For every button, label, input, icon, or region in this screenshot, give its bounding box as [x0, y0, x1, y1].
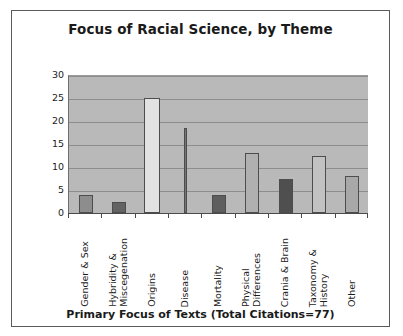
x-axis-tick-mark [201, 214, 202, 218]
x-axis-category-label: Hybridity & Miscegenation [101, 219, 134, 307]
bar [212, 195, 226, 213]
x-axis-tick-mark [268, 214, 269, 218]
x-axis-category-label: Origins [135, 219, 168, 307]
y-axis-tick-label: 30 [24, 69, 64, 80]
y-axis-tick-label: 10 [24, 161, 64, 172]
bar [312, 156, 326, 214]
y-axis-tick-label: 25 [24, 92, 64, 103]
bar [79, 195, 93, 213]
x-axis-tick-mark [101, 214, 102, 218]
x-axis-category-label: Physical Differences [235, 219, 268, 307]
x-axis-category-label: Disease [168, 219, 201, 307]
bar [184, 128, 187, 213]
bar [345, 176, 359, 213]
plot-area [68, 75, 368, 213]
x-axis-tick-mark [335, 214, 336, 218]
x-axis-title: Primary Focus of Texts (Total Citations=… [12, 308, 389, 321]
x-axis-tick-mark [301, 214, 302, 218]
y-axis-tick-label: 15 [24, 138, 64, 149]
chart-figure: Focus of Racial Science, by Theme 302520… [11, 10, 390, 327]
x-axis-category-label: Gender & Sex [68, 219, 101, 307]
gridline [69, 145, 368, 146]
x-axis-tick-mark [367, 214, 368, 218]
x-axis-category-label: Crania & Brain [268, 219, 301, 307]
x-axis-tick-mark [135, 214, 136, 218]
x-axis-category-labels: Gender & SexHybridity & MiscegenationOri… [68, 219, 368, 307]
y-axis-tick-label: 0 [24, 207, 64, 218]
x-axis-category-label: Taxonomy & History [301, 219, 334, 307]
bar [112, 202, 126, 214]
bar [245, 153, 259, 213]
x-axis-category-label: Other [335, 219, 368, 307]
gridline [69, 76, 368, 77]
gridline [69, 122, 368, 123]
y-axis-tick-labels: 302520151050 [20, 75, 64, 213]
y-axis-tick-label: 5 [24, 184, 64, 195]
x-axis-tick-mark [68, 214, 69, 218]
x-axis-tick-mark [235, 214, 236, 218]
bar [279, 179, 293, 214]
gridline [69, 99, 368, 100]
bar [144, 98, 160, 213]
x-axis-category-label: Mortality [201, 219, 234, 307]
y-axis-tick-label: 20 [24, 115, 64, 126]
x-axis-tick-mark [168, 214, 169, 218]
chart-title: Focus of Racial Science, by Theme [12, 21, 389, 37]
